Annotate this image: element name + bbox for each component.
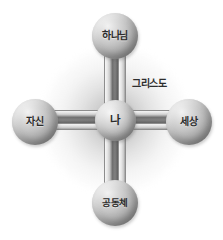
relationship-diagram: 하나님 자신 세상 공동체 나 그리스도 [0,0,223,240]
node-community-label: 공동체 [102,198,128,208]
node-community[interactable]: 공동체 [92,180,138,226]
node-self[interactable]: 자신 [12,99,58,145]
node-world-label: 세상 [180,117,198,127]
node-god-label: 하나님 [102,31,128,41]
annotation-christ: 그리스도 [132,75,167,90]
node-god[interactable]: 하나님 [92,13,138,59]
node-world[interactable]: 세상 [166,99,212,145]
node-me-center[interactable]: 나 [95,100,136,141]
node-me-label: 나 [110,115,121,127]
node-self-label: 자신 [26,117,44,127]
